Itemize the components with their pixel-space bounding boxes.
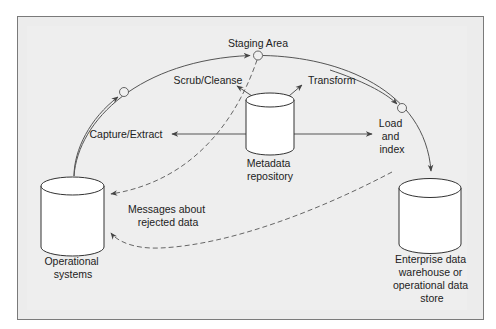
rejected-messages-line-1: Messages about [128,203,205,215]
enterprise-store-line-2: warehouse or [398,266,463,278]
rejected-messages-line-2: rejected data [138,216,199,228]
scrub-cleanse-label: Scrub/Cleanse [174,74,243,86]
operational-systems-line-1: Operational [44,255,98,267]
metadata-repository-line-1: Metadata [247,157,291,169]
metadata-repository-line-2: repository [247,170,294,182]
operational-systems-cylinder-icon [41,177,104,256]
load-stage-marker [398,104,407,113]
metadata-repository-label: Metadata repository [247,157,294,182]
staging-stage-marker [254,51,263,60]
load-index-line-2: and [382,130,400,142]
extract-stage-marker [120,88,129,97]
operational-systems-line-2: systems [54,268,93,280]
load-index-line-3: index [379,143,405,155]
enterprise-store-cylinder-icon [399,179,461,254]
transform-label: Transform [308,74,356,86]
capture-extract-label: Capture/Extract [90,128,163,140]
enterprise-store-line-4: store [420,292,444,304]
metadata-repository-cylinder-icon [246,93,294,155]
enterprise-store-line-3: operational data [393,279,468,291]
load-index-line-1: Load [379,117,403,129]
load-index-label: Load and index [379,117,405,155]
staging-area-label: Staging Area [228,37,288,49]
rejected-messages-label: Messages about rejected data [128,203,208,228]
enterprise-store-line-1: Enterprise data [395,253,466,265]
etl-process-diagram: Staging Area Scrub/Cleanse Transform Cap… [0,0,496,329]
